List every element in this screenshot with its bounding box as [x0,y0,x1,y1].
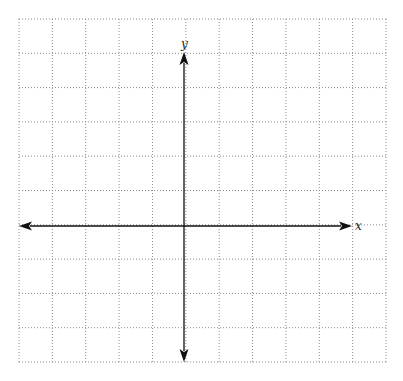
y-axis-label: y [180,37,188,51]
axes: x y [19,37,362,362]
coordinate-plane: x y [0,0,403,381]
grid [19,19,386,362]
x-axis-label: x [355,219,362,233]
